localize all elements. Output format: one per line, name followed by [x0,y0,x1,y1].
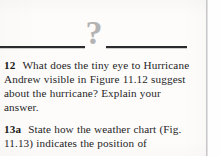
right-margin [208,0,221,156]
question-text: What does the tiny eye to Hurricane Andr… [4,59,189,113]
question-number: 13a [4,123,21,135]
question-item: 12What does the tiny eye to Hurricane An… [4,58,196,114]
document-page: ? 12What does the tiny eye to Hurricane … [0,0,221,156]
questions-list: 12What does the tiny eye to Hurricane An… [4,58,196,150]
divider-rule-left-shadow [0,48,85,49]
question-text: State how the weather chart (Fig. 11.13)… [4,123,181,149]
question-mark-icon: ? [80,16,108,50]
column-rule-soft-edge [207,0,208,156]
question-item: 13aState how the weather chart (Fig. 11.… [4,122,196,150]
section-divider: ? [0,20,221,52]
question-number: 12 [4,59,15,71]
divider-rule-right-shadow [106,48,187,49]
